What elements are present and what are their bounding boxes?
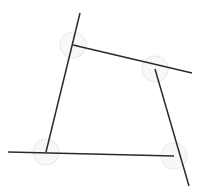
geometry-figure-svg [0, 0, 203, 191]
left-segment [46, 13, 80, 152]
top-segment [73, 45, 192, 73]
geometry-figure-canvas [0, 0, 203, 191]
